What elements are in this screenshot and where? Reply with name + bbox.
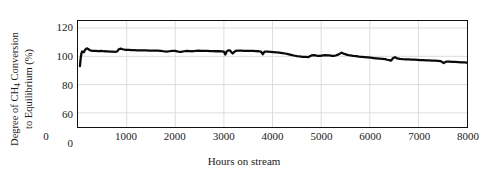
y-axis-tick-120: 120 (39, 22, 73, 33)
y-axis-label-subscript: 4 (13, 83, 22, 87)
x-axis-tick-7000: 7000 (408, 131, 430, 142)
x-axis-tick-4000: 4000 (262, 131, 284, 142)
x-axis-tick-1000: 1000 (115, 131, 137, 142)
y-axis-label: Degree of CH4 Conversion to Equilibrium … (0, 0, 44, 178)
plot-svg (78, 21, 467, 127)
x-axis-tick-2000: 2000 (164, 131, 186, 142)
plot-area (77, 20, 468, 128)
y-axis-tick-60: 60 (39, 108, 73, 119)
y-axis-tick-100: 100 (39, 51, 73, 62)
gridlines (78, 21, 467, 127)
x-axis-tick-6000: 6000 (359, 131, 381, 142)
y-axis-label-line-1: Degree of CH4 Conversion (9, 32, 23, 146)
x-axis-label: Hours on stream (0, 155, 488, 167)
y-axis-tick-80: 80 (39, 79, 73, 90)
y-axis-label-line-2: to Equilibrium (%) (23, 49, 35, 129)
x-axis-tick-0: 0 (43, 131, 49, 142)
x-axis-tick-8000: 8000 (457, 131, 479, 142)
y-axis-tick-labels: 60801001200 (39, 0, 73, 178)
data-series-line (80, 48, 467, 66)
x-axis-tick-3000: 3000 (213, 131, 235, 142)
chart-figure: Degree of CH4 Conversion to Equilibrium … (0, 0, 488, 178)
x-axis-tick-5000: 5000 (310, 131, 332, 142)
